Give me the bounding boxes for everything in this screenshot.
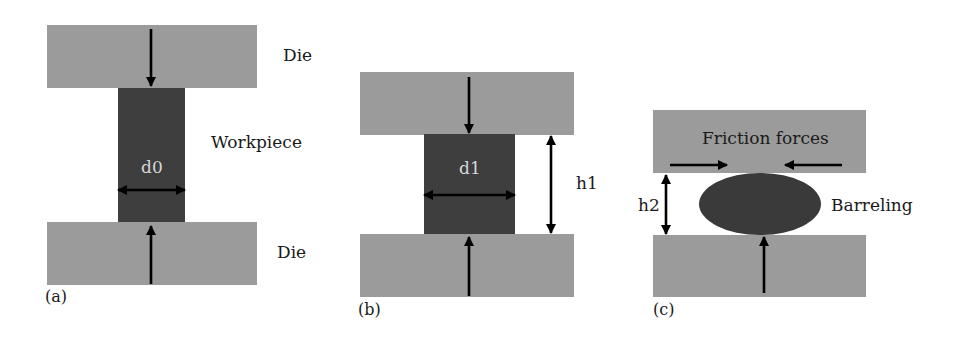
panel-a-caption: (a): [45, 289, 67, 305]
panel-c-barreled-workpiece: [699, 173, 821, 235]
panel-c-bottom-die: [653, 235, 866, 297]
panel-a-diameter-label: d0: [141, 159, 163, 176]
panel-c-barreling-label: Barreling: [831, 197, 913, 214]
panel-b-height-label: h1: [576, 175, 598, 192]
panel-b-workpiece: [424, 134, 515, 235]
panel-b-top-die: [360, 72, 574, 135]
panel-c-height-label: h2: [638, 197, 660, 214]
panel-b-bottom-die: [360, 234, 574, 297]
panel-a-top-die-label: Die: [283, 47, 312, 64]
panel-b-diameter-label: d1: [459, 160, 481, 177]
panel-c-caption: (c): [653, 302, 674, 318]
panel-a-workpiece-label: Workpiece: [211, 134, 302, 151]
panel-a-top-die: [47, 25, 257, 88]
upsetting-process-diagram: Die Workpiece Die d0 (a) d1 h1 (b) Frict…: [0, 0, 956, 339]
panel-b-caption: (b): [358, 302, 381, 318]
panel-c-friction-label: Friction forces: [702, 130, 829, 147]
panel-a-bottom-die-label: Die: [277, 244, 306, 261]
panel-a-bottom-die: [47, 222, 257, 285]
